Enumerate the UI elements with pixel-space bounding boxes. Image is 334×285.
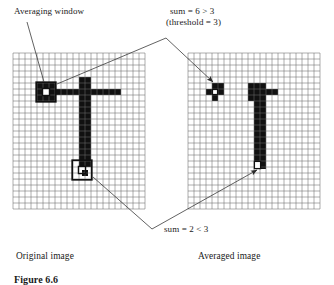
caption-original-image: Original image — [16, 251, 74, 262]
left-grid-panel — [13, 53, 145, 209]
figure-graphics — [0, 0, 334, 285]
label-threshold-value: (threshold = 3) — [166, 17, 221, 28]
right-grid-white-result-cell — [254, 161, 260, 168]
caption-averaged-image: Averaged image — [198, 251, 260, 262]
right-grid-center-white-cell — [213, 90, 218, 95]
right-grid-panel — [188, 53, 320, 209]
label-sum-below-threshold: sum = 2 < 3 — [164, 224, 208, 235]
label-sum-above-threshold: sum = 6 > 3 — [170, 6, 214, 17]
figure-6-6: Averaging window sum = 6 > 3 (threshold … — [0, 0, 334, 285]
label-averaging-window: Averaging window — [14, 6, 84, 17]
figure-number-label: Figure 6.6 — [14, 274, 58, 285]
